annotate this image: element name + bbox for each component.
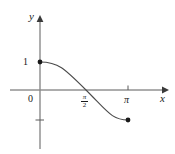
y-axis-label: y <box>29 11 34 22</box>
plot-canvas <box>0 0 175 154</box>
fraction-denominator: 2 <box>81 102 88 109</box>
start-point-dot <box>38 60 43 65</box>
fraction-numerator: π <box>81 94 88 101</box>
x-tick-label-pi: π <box>124 95 129 105</box>
end-point-dot <box>126 118 131 123</box>
y-axis-arrowhead <box>37 15 44 22</box>
x-tick-label-pi-over-two: π 2 <box>81 94 88 109</box>
cosine-curve <box>40 62 128 120</box>
origin-label: 0 <box>28 94 33 104</box>
y-tick-label-one: 1 <box>23 57 28 67</box>
x-axis-label: x <box>160 93 165 104</box>
cosine-curve-figure: y x 1 0 π π 2 <box>0 0 175 154</box>
